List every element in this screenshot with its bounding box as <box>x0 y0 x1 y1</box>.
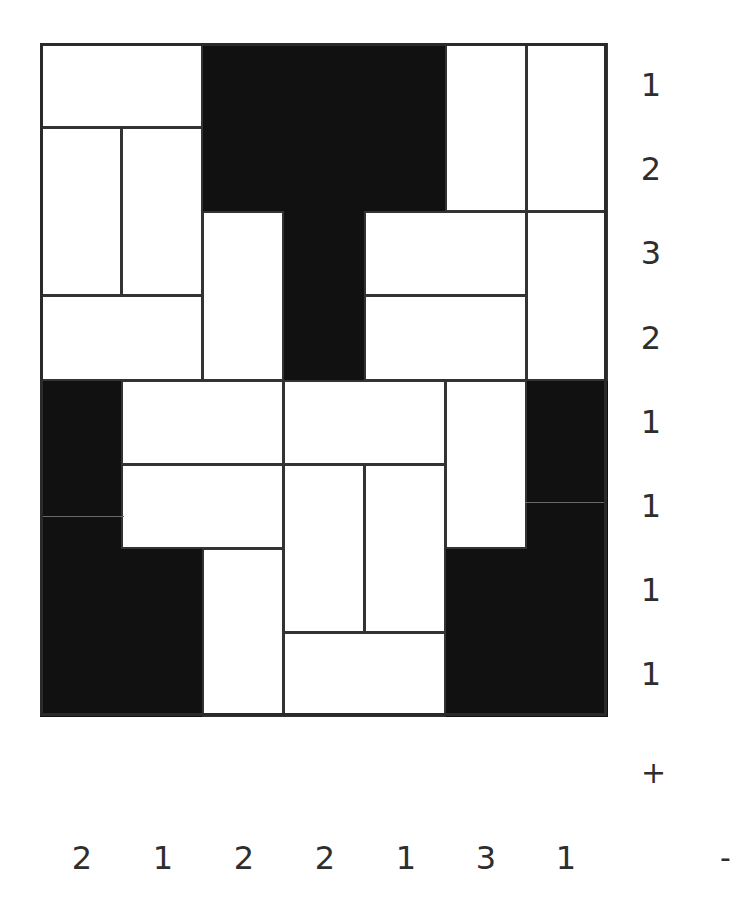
plus-button[interactable]: + <box>641 758 666 788</box>
row-clue: 1 <box>631 406 671 438</box>
domino-vertical[interactable] <box>445 43 527 212</box>
black-cell[interactable] <box>121 548 203 633</box>
row-clue: 2 <box>631 322 671 354</box>
black-cell[interactable] <box>121 632 203 717</box>
column-clue: 2 <box>305 842 345 874</box>
domino-vertical[interactable] <box>40 127 122 296</box>
black-cell[interactable] <box>283 43 365 128</box>
domino-vertical[interactable] <box>121 127 203 296</box>
domino-vertical[interactable] <box>364 464 446 633</box>
black-cell[interactable] <box>283 127 365 212</box>
column-clue: 2 <box>224 842 264 874</box>
domino-horizontal[interactable] <box>121 464 284 549</box>
black-cell[interactable] <box>526 464 608 549</box>
column-clue: 1 <box>143 842 183 874</box>
seam-line-right <box>525 502 604 503</box>
domino-vertical[interactable] <box>202 548 284 717</box>
domino-horizontal[interactable] <box>283 380 446 465</box>
seam-line-left <box>43 516 124 517</box>
domino-vertical[interactable] <box>526 211 608 380</box>
black-cell[interactable] <box>202 43 284 128</box>
black-cell[interactable] <box>445 632 527 717</box>
puzzle-board <box>40 43 607 716</box>
domino-horizontal[interactable] <box>40 295 203 380</box>
minus-button[interactable]: - <box>720 843 731 873</box>
black-cell[interactable] <box>40 464 122 549</box>
row-clue: 2 <box>631 153 671 185</box>
row-clue: 1 <box>631 490 671 522</box>
domino-vertical[interactable] <box>445 380 527 549</box>
black-cell[interactable] <box>40 632 122 717</box>
column-clue: 3 <box>466 842 506 874</box>
column-clue: 1 <box>546 842 586 874</box>
domino-horizontal[interactable] <box>364 295 527 380</box>
domino-vertical[interactable] <box>202 211 284 380</box>
column-clue: 2 <box>62 842 102 874</box>
black-cell[interactable] <box>526 548 608 633</box>
row-clue: 3 <box>631 237 671 269</box>
row-clue: 1 <box>631 69 671 101</box>
black-cell[interactable] <box>202 127 284 212</box>
black-cell[interactable] <box>445 548 527 633</box>
black-cell[interactable] <box>40 548 122 633</box>
domino-horizontal[interactable] <box>283 632 446 717</box>
domino-vertical[interactable] <box>283 464 365 633</box>
domino-vertical[interactable] <box>526 43 608 212</box>
domino-horizontal[interactable] <box>40 43 203 128</box>
black-cell[interactable] <box>283 295 365 380</box>
black-cell[interactable] <box>364 43 446 128</box>
row-clue: 1 <box>631 574 671 606</box>
column-clue: 1 <box>386 842 426 874</box>
black-cell[interactable] <box>526 632 608 717</box>
black-cell[interactable] <box>364 127 446 212</box>
black-cell[interactable] <box>283 211 365 296</box>
black-cell[interactable] <box>526 380 608 465</box>
black-cell[interactable] <box>40 380 122 465</box>
domino-horizontal[interactable] <box>364 211 527 296</box>
row-clue: 1 <box>631 658 671 690</box>
domino-horizontal[interactable] <box>121 380 284 465</box>
